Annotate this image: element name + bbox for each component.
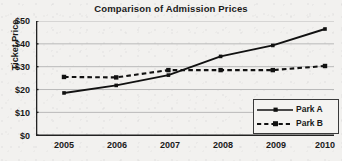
x-axis-tick-labels: 2005 2006 2007 2008 2009 2010 bbox=[0, 140, 342, 154]
data-point bbox=[271, 68, 275, 72]
x-tick-label-2010: 2010 bbox=[315, 140, 335, 150]
legend-item-park-b[interactable]: Park B bbox=[254, 116, 338, 131]
chart-title: Comparison of Admission Prices bbox=[0, 3, 342, 14]
x-tick-label-2006: 2006 bbox=[107, 140, 127, 150]
legend-item-park-a[interactable]: Park A bbox=[254, 102, 338, 117]
data-point bbox=[219, 55, 223, 59]
data-point bbox=[166, 68, 170, 72]
y-tick-label-50: $50 bbox=[4, 16, 30, 26]
y-axis-tick-labels: $0 $10 $20 $30 $40 $50 bbox=[4, 0, 30, 161]
x-tick-label-2005: 2005 bbox=[54, 140, 74, 150]
data-point bbox=[62, 91, 66, 95]
y-tick-label-30: $30 bbox=[4, 62, 30, 72]
legend-swatch-solid-line-icon bbox=[254, 104, 296, 116]
data-point bbox=[167, 73, 171, 77]
data-point bbox=[218, 68, 222, 72]
legend-label-park-b: Park B bbox=[296, 119, 323, 128]
y-tick-label-40: $40 bbox=[4, 39, 30, 49]
x-tick-label-2007: 2007 bbox=[160, 140, 180, 150]
chart-legend: Park A Park B bbox=[253, 99, 339, 134]
data-point bbox=[271, 44, 275, 48]
y-tick-label-10: $10 bbox=[4, 108, 30, 118]
legend-label-park-a: Park A bbox=[296, 105, 323, 114]
x-tick-label-2008: 2008 bbox=[213, 140, 233, 150]
data-point bbox=[114, 75, 118, 79]
legend-swatch-dashed-line-icon bbox=[254, 118, 296, 130]
y-tick-label-20: $20 bbox=[4, 85, 30, 95]
data-point bbox=[62, 75, 66, 79]
data-point bbox=[114, 84, 118, 88]
data-point bbox=[323, 27, 327, 31]
data-series-layer bbox=[62, 27, 327, 95]
data-point bbox=[323, 64, 327, 68]
x-tick-label-2009: 2009 bbox=[266, 140, 286, 150]
series-park-a bbox=[62, 27, 327, 95]
